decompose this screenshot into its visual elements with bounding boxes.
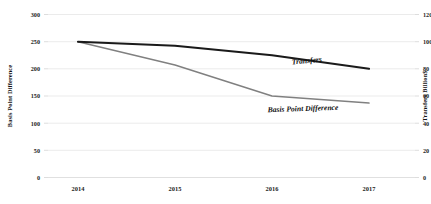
series-line-transfers (78, 42, 369, 69)
left-tick-labels: 300 250 200 150 100 50 0 (31, 11, 40, 181)
left-tick-250: 250 (31, 38, 40, 45)
right-tick-0: 0 (423, 174, 426, 181)
right-tick-120: 120 (423, 11, 431, 18)
right-axis-ticks (415, 15, 419, 178)
right-tick-100: 100 (423, 38, 431, 45)
series-annotation-basis-point-difference: Basis Point Difference (266, 103, 339, 115)
gridlines (48, 15, 415, 178)
right-axis-title: Transfers Billion$ (421, 70, 428, 122)
left-axis-ticks (44, 15, 48, 178)
left-tick-150: 150 (31, 92, 40, 99)
left-tick-200: 200 (31, 65, 40, 72)
line-chart: 300 250 200 150 100 50 0 120 100 80 60 4… (0, 0, 431, 204)
left-axis-title: Basis Point Difference (6, 65, 13, 127)
x-label-2014: 2014 (72, 185, 86, 192)
x-label-2017: 2017 (363, 185, 377, 192)
chart-container: 300 250 200 150 100 50 0 120 100 80 60 4… (0, 0, 431, 204)
x-axis-labels: 2014 2015 2016 2017 (72, 185, 377, 192)
left-tick-100: 100 (31, 120, 40, 127)
x-label-2015: 2015 (169, 185, 182, 192)
left-tick-300: 300 (31, 11, 40, 18)
left-tick-0: 0 (37, 174, 40, 181)
right-tick-20: 20 (423, 147, 429, 154)
series-annotation-transfers: Transfers (291, 55, 322, 67)
x-label-2016: 2016 (266, 185, 280, 192)
left-tick-50: 50 (34, 147, 40, 154)
